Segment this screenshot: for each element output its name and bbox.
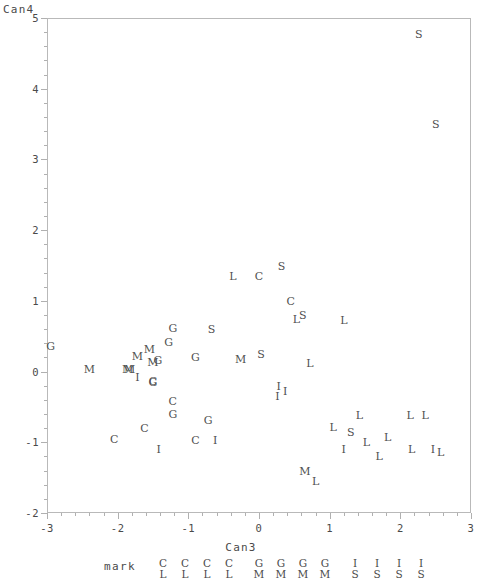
- data-point-i: I: [431, 444, 435, 455]
- y-minor-tick: [44, 273, 47, 274]
- y-minor-tick: [44, 244, 47, 245]
- x-minor-tick: [202, 513, 203, 516]
- x-minor-tick: [301, 513, 302, 516]
- legend-entry-bottom: M: [296, 569, 310, 580]
- data-point-c: C: [191, 435, 199, 446]
- legend: mark CLCLCLCLGMGMGMGMISISISIS: [0, 558, 482, 588]
- legend-entry: CL: [156, 558, 170, 580]
- y-minor-tick: [44, 216, 47, 217]
- legend-entry-bottom: S: [392, 569, 406, 580]
- x-minor-tick: [457, 513, 458, 516]
- data-point-l: L: [340, 314, 347, 325]
- y-major-tick: [41, 18, 47, 19]
- x-minor-tick: [287, 513, 288, 516]
- data-point-m: M: [84, 364, 95, 375]
- data-point-l: L: [408, 444, 415, 455]
- y-major-tick: [41, 159, 47, 160]
- data-point-c: C: [140, 423, 148, 434]
- y-tick-label: 0: [1, 366, 39, 378]
- x-minor-tick: [245, 513, 246, 516]
- x-major-tick: [259, 513, 260, 519]
- x-minor-tick: [132, 513, 133, 516]
- x-tick-label: -3: [27, 522, 67, 534]
- data-point-i: I: [275, 391, 279, 402]
- data-point-g: G: [191, 352, 200, 363]
- legend-entry-bottom: S: [370, 569, 384, 580]
- legend-entry-bottom: S: [348, 569, 362, 580]
- x-tick-label: -1: [168, 522, 208, 534]
- y-minor-tick: [44, 287, 47, 288]
- x-minor-tick: [89, 513, 90, 516]
- data-point-i: I: [213, 435, 217, 446]
- legend-entry-bottom: M: [252, 569, 266, 580]
- data-point-g: G: [164, 336, 173, 347]
- data-point-c: C: [287, 295, 295, 306]
- y-tick-label: -2: [1, 507, 39, 519]
- y-tick-label: 1: [1, 295, 39, 307]
- x-major-tick: [188, 513, 189, 519]
- data-point-c: C: [169, 396, 177, 407]
- legend-entry-bottom: L: [200, 569, 214, 580]
- y-tick-label: 4: [1, 83, 39, 95]
- data-point-s: S: [299, 310, 307, 321]
- legend-entry: CL: [200, 558, 214, 580]
- y-tick-label: -1: [1, 436, 39, 448]
- data-point-l: L: [306, 358, 313, 369]
- x-minor-tick: [273, 513, 274, 516]
- x-major-tick: [471, 513, 472, 519]
- x-tick-label: 1: [310, 522, 350, 534]
- x-minor-tick: [316, 513, 317, 516]
- y-major-tick: [41, 513, 47, 514]
- y-minor-tick: [44, 386, 47, 387]
- y-major-tick: [41, 442, 47, 443]
- y-minor-tick: [44, 456, 47, 457]
- y-minor-tick: [44, 485, 47, 486]
- legend-entry: IS: [348, 558, 362, 580]
- y-minor-tick: [44, 131, 47, 132]
- legend-entry: CL: [178, 558, 192, 580]
- x-minor-tick: [358, 513, 359, 516]
- x-minor-tick: [344, 513, 345, 516]
- data-point-s: S: [415, 28, 423, 39]
- data-point-m: M: [147, 357, 158, 368]
- x-minor-tick: [104, 513, 105, 516]
- legend-entry: CL: [222, 558, 236, 580]
- data-point-l: L: [312, 476, 319, 487]
- y-minor-tick: [44, 46, 47, 47]
- data-point-i: I: [283, 385, 287, 396]
- y-tick-label: 2: [1, 224, 39, 236]
- data-point-i: I: [135, 372, 139, 383]
- data-point-l: L: [407, 410, 414, 421]
- y-minor-tick: [44, 60, 47, 61]
- y-minor-tick: [44, 471, 47, 472]
- data-point-m: M: [122, 364, 133, 375]
- y-minor-tick: [44, 103, 47, 104]
- legend-entry-bottom: M: [318, 569, 332, 580]
- x-minor-tick: [217, 513, 218, 516]
- y-tick-label: 5: [1, 12, 39, 24]
- y-minor-tick: [44, 499, 47, 500]
- x-minor-tick: [414, 513, 415, 516]
- data-point-l: L: [375, 451, 382, 462]
- legend-entry-bottom: L: [178, 569, 192, 580]
- y-minor-tick: [44, 117, 47, 118]
- x-minor-tick: [231, 513, 232, 516]
- data-point-m: M: [299, 465, 310, 476]
- y-tick-label: 3: [1, 153, 39, 165]
- x-minor-tick: [61, 513, 62, 516]
- x-tick-label: -2: [98, 522, 138, 534]
- y-minor-tick: [44, 258, 47, 259]
- y-minor-tick: [44, 32, 47, 33]
- y-major-tick: [41, 372, 47, 373]
- data-point-s: S: [208, 324, 216, 335]
- data-point-s: S: [278, 260, 286, 271]
- x-minor-tick: [443, 513, 444, 516]
- legend-entry: GM: [318, 558, 332, 580]
- data-point-g: G: [204, 414, 213, 425]
- data-point-i: I: [156, 444, 160, 455]
- data-point-m: M: [235, 353, 246, 364]
- y-minor-tick: [44, 174, 47, 175]
- scatter-plot: Can4 Can3 -3-2-10123-2-1012345 SSSLCCLSL…: [0, 0, 482, 588]
- x-tick-label: 2: [380, 522, 420, 534]
- data-point-l: L: [421, 410, 428, 421]
